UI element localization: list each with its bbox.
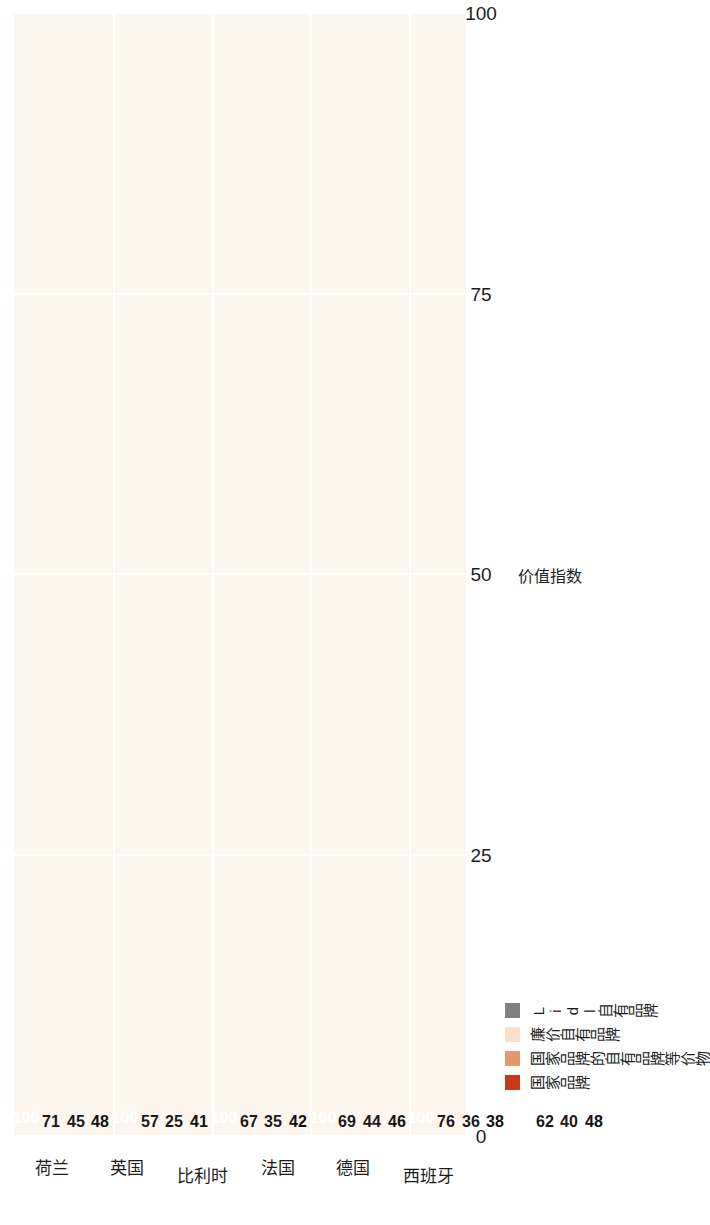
bar-value-label: 100 [507,1110,534,1126]
value-axis-tick: 100 [465,3,497,25]
value-axis-tick: 50 [470,565,491,587]
category-label: 西班牙 [391,1141,466,1225]
category-axis-labels: 荷兰英国比利时法国德国西班牙 [14,1141,466,1225]
value-axis-title-text: 价值指数 [518,564,582,588]
category-label-text: 比利时 [177,1162,228,1187]
legend-label: 国家品牌 [530,1073,590,1094]
bar-value-label: 48 [585,1114,603,1130]
bar-value-label: 45 [67,1114,85,1130]
legend-item[interactable]: 廉价自有品牌 [505,1023,620,1047]
category-label: 法国 [240,1141,315,1225]
bar-value-label: 100 [309,1110,336,1126]
value-axis-tick: 75 [470,284,491,306]
legend-item[interactable]: 国家品牌 [505,1071,590,1095]
value-axis-tick: 0 [476,1126,487,1148]
bar-value-label: 67 [240,1114,258,1130]
legend-item[interactable]: Lidl自有品牌 [505,999,658,1023]
legend-item[interactable]: 国家品牌的自有品牌等价物 [505,1047,710,1071]
category-label-text: 西班牙 [403,1162,454,1187]
bar-value-label: 100 [210,1110,237,1126]
bar-value-label: 100 [13,1110,40,1126]
value-axis-tick: 25 [470,845,491,867]
bar-value-label: 41 [190,1114,208,1130]
bar-value-label: 35 [264,1114,282,1130]
category-label: 英国 [89,1141,164,1225]
bar-value-label: 69 [338,1114,356,1130]
chart-legend: 国家品牌国家品牌的自有品牌等价物廉价自有品牌Lidl自有品牌 [505,999,710,1095]
bar-value-label: 100 [408,1110,435,1126]
category-label: 比利时 [165,1141,240,1225]
legend-swatch [505,1052,520,1067]
bar-value-label: 42 [289,1114,307,1130]
bar-value-label: 57 [141,1114,159,1130]
bar-groups: 1007145481005725411006735421006944461007… [14,14,466,1137]
bar-value-label: 25 [166,1114,184,1130]
bar-value-label: 71 [42,1114,60,1130]
bar-group: 100673542 [212,14,311,1137]
legend-swatch [505,1028,520,1043]
bar-value-label: 46 [388,1114,406,1130]
plot-area: 1007145481005725411006735421006944461007… [14,14,466,1137]
bar-value-label: 44 [363,1114,381,1130]
bar-group: 100714548 [14,14,113,1137]
legend-label: Lidl自有品牌 [530,1001,658,1022]
category-label-text: 英国 [110,1154,144,1179]
legend-swatch [505,1004,520,1019]
bar-value-label: 40 [561,1114,579,1130]
value-axis-title: 价值指数 [538,14,562,1137]
bar-value-label: 100 [112,1110,139,1126]
bar-group: 100572541 [113,14,212,1137]
bar-value-label: 48 [92,1114,110,1130]
legend-swatch [505,1076,520,1091]
category-label: 荷兰 [14,1141,89,1225]
bar-value-label: 76 [437,1114,455,1130]
category-label-text: 荷兰 [35,1154,69,1179]
category-label-text: 德国 [336,1154,370,1179]
category-label: 德国 [315,1141,390,1225]
legend-label: 廉价自有品牌 [530,1025,620,1046]
bar-group: 100694446 [310,14,409,1137]
legend-label: 国家品牌的自有品牌等价物 [530,1049,710,1070]
value-axis: 0255075100 [470,14,506,1137]
category-label-text: 法国 [261,1154,295,1179]
